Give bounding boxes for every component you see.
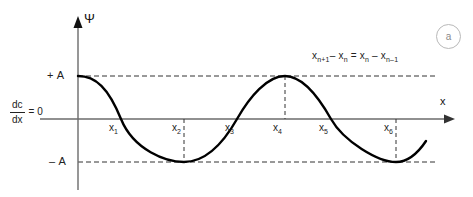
equation-term-2-sub: n xyxy=(344,56,348,63)
x-tick-label-1: x1 xyxy=(109,123,118,135)
x-tick-sub-2: 2 xyxy=(177,128,181,135)
wave-plot-canvas xyxy=(0,0,473,197)
x-tick-label-4: x4 xyxy=(273,123,282,135)
derivative-equals-zero: = 0 xyxy=(29,107,43,117)
x-tick-sub-4: 4 xyxy=(278,128,282,135)
derivative-fraction: dc dx xyxy=(10,99,25,125)
x-tick-label-2: x2 xyxy=(172,123,181,135)
equation-equals: = xyxy=(351,50,357,61)
x-tick-label-6: x6 xyxy=(384,123,393,135)
x-axis-label: x xyxy=(440,96,446,107)
equation-minus-2: – xyxy=(372,50,378,61)
derivative-zero-label: dc dx = 0 xyxy=(10,99,43,125)
equation-minus-1: – xyxy=(330,50,336,61)
equation-term-1-sub: n+1 xyxy=(317,56,329,63)
negative-amplitude-label: – A xyxy=(49,156,66,167)
x-tick-sub-5: 5 xyxy=(324,128,328,135)
positive-amplitude-label: + A xyxy=(47,70,65,81)
x-axis-arrowhead xyxy=(444,115,455,124)
wave-diagram-figure: Ψ x + A – A dc dx = 0 xn+1– xn = xn – xn… xyxy=(0,0,473,197)
panel-label-badge: a xyxy=(436,24,461,49)
x-tick-sub-3: 3 xyxy=(230,128,234,135)
equation-term-4-sub: n–1 xyxy=(386,56,398,63)
derivative-denominator: dx xyxy=(10,113,25,126)
spacing-equation-annotation: xn+1– xn = xn – xn–1 xyxy=(312,51,398,63)
x-tick-label-5: x5 xyxy=(319,123,328,135)
equation-term-3-sub: n xyxy=(365,56,369,63)
y-axis-arrowhead xyxy=(74,16,83,28)
y-axis-label: Ψ xyxy=(84,12,95,25)
x-tick-sub-1: 1 xyxy=(114,128,118,135)
derivative-numerator: dc xyxy=(10,99,25,112)
x-tick-sub-6: 6 xyxy=(389,128,393,135)
x-tick-label-3: x3 xyxy=(225,123,234,135)
